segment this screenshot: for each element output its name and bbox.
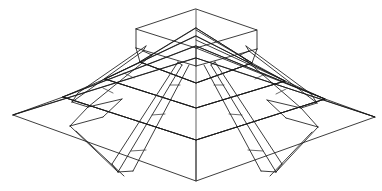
stair-bl-rail-outer	[72, 51, 143, 102]
stair-bl-tread-1	[103, 88, 113, 93]
buttress-right-inner	[286, 118, 318, 127]
stair-br-rail-outer-2	[246, 46, 311, 94]
corner-ridge-lines	[13, 28, 375, 117]
skirt-left-inner	[76, 131, 124, 176]
stair-br-rail-inner	[240, 55, 301, 108]
front-ridge-right-1	[196, 99, 325, 140]
staircase-front-right	[204, 62, 282, 172]
buttress-left-link	[103, 99, 122, 117]
hip-front-right	[196, 58, 375, 117]
wireframe-ziggurat-drawing	[0, 0, 382, 191]
tier-two-top-rim	[105, 40, 285, 108]
block-bottom-left	[136, 48, 196, 66]
skirt-left-edge	[70, 126, 118, 172]
tier-two-outline	[63, 46, 325, 140]
skirt-right-edge	[276, 127, 318, 172]
buttress-left	[70, 99, 122, 126]
ground-tier-outline	[13, 58, 375, 181]
skirt-right-inner	[270, 132, 312, 176]
hip-front-left	[13, 58, 196, 115]
tier-two	[63, 40, 325, 140]
ground-tier	[13, 48, 375, 181]
front-ridge-left-1	[63, 97, 196, 140]
stair-fr-rail-inner	[204, 65, 261, 171]
figure-canvas: Wireframe stepped pyramid (ziggurat) Bla…	[0, 0, 382, 191]
front-ridge-lines	[63, 62, 325, 140]
stair-br-tread-2	[255, 74, 265, 79]
buttress-right-outer	[301, 108, 318, 127]
buttress-right-link	[267, 100, 286, 118]
base-top-rim	[63, 48, 325, 140]
stair-fl-rail-outer	[118, 65, 182, 172]
staircase-back-left	[72, 46, 152, 107]
stair-fl-foot	[118, 171, 133, 172]
front-ridge-left-2	[105, 79, 196, 108]
buttress-left-inner	[70, 117, 103, 126]
